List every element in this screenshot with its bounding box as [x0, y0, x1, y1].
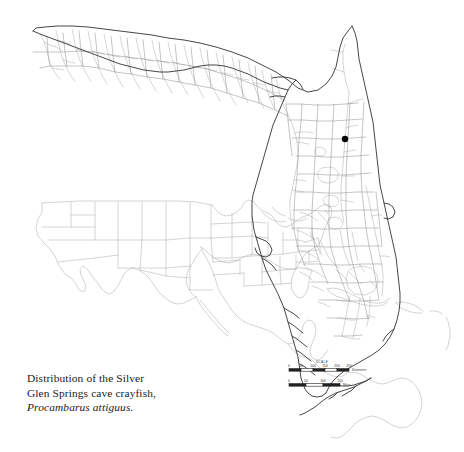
caption-species-name: Procambarus attiguus. [27, 400, 247, 415]
figure-caption: Distribution of the Silver Glen Springs … [27, 371, 247, 415]
caption-line-1: Distribution of the Silver [27, 371, 247, 386]
scale-bar: SCALE 0 50 100 150 200 250 Kilometers 0 [281, 360, 363, 392]
scale-mi-unit: Miles [343, 383, 350, 387]
scale-km-ticks: 0 50 100 150 200 250 [281, 364, 363, 368]
figure-canvas: SCALE 0 50 100 150 200 250 Kilometers 0 [0, 0, 464, 452]
scale-km-unit: Kilometers [352, 368, 367, 372]
caption-line-2: Glen Springs cave crayfish, [27, 386, 247, 401]
scale-mi-ticks: 0 50 100 150 [281, 379, 363, 383]
occurrence-marker [342, 136, 348, 142]
